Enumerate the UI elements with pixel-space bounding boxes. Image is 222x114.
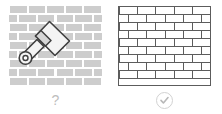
brick-joint [128,63,129,70]
brick-joint [210,7,211,14]
brick-joint [174,71,175,78]
brick-joint [137,55,138,62]
brick-row [9,6,102,13]
brick-joint [210,71,211,78]
brick-joint [119,71,120,78]
question-mark-icon: ? [52,93,60,107]
brick [66,6,83,13]
brick-joint [155,39,156,46]
check-circle-icon [156,92,173,109]
brick-joint [128,47,129,54]
brick [38,69,55,76]
unpainted-brick-wall-panel[interactable] [9,6,102,86]
brick-joint [155,71,156,78]
check-mark-glyph [159,95,170,106]
brick [29,6,46,13]
brick [47,6,64,13]
brick-row [119,7,210,15]
brick [10,6,27,13]
brick-joint [183,47,184,54]
brick-joint [155,23,156,30]
brick-row [119,31,210,39]
brick [10,78,27,85]
brick-joint [192,7,193,14]
brick-joint [192,39,193,46]
brick [9,69,17,76]
brick [94,33,102,40]
brick-row [119,15,210,23]
brick-joint [146,63,147,70]
brick [84,60,101,67]
brick [57,69,74,76]
brick-joint [201,31,202,38]
brick-joint [146,47,147,54]
brick [66,78,83,85]
brick-row [9,78,102,85]
brick [84,6,101,13]
brick-joint [165,63,166,70]
brick-joint [174,55,175,62]
brick-joint [146,31,147,38]
brick-joint [210,55,211,62]
brick-joint [155,7,156,14]
brick [75,51,92,58]
brick [19,69,36,76]
brick-joint [119,39,120,46]
brick-row [9,69,102,76]
brick-joint [146,15,147,22]
brick [75,33,92,40]
brick-row [119,55,210,63]
brick-joint [201,63,202,70]
trowel-icon [17,18,73,70]
brick-joint [165,47,166,54]
brick-joint [174,23,175,30]
brick [29,78,46,85]
brick [94,69,102,76]
brick-joint [165,31,166,38]
brick-joint [183,31,184,38]
brick-joint [183,63,184,70]
brick-joint [119,55,120,62]
brick [47,78,64,85]
brick-joint [192,71,193,78]
brick-joint [137,23,138,30]
brick-row [119,39,210,47]
right-panel-caption[interactable] [118,90,211,110]
brick [94,15,102,22]
brick-joint [192,55,193,62]
brick-joint [210,39,211,46]
brick [84,78,101,85]
brick [94,51,102,58]
brick-joint [137,7,138,14]
brick-joint [137,39,138,46]
brick-joint [192,23,193,30]
brick-joint [174,7,175,14]
brick-row [119,47,210,55]
brick [75,15,92,22]
brick-joint [155,55,156,62]
brick-joint [119,7,120,14]
brick-joint [183,15,184,22]
brick [84,42,101,49]
brick [75,69,92,76]
comparison-board: ? [0,0,222,114]
brick-joint [165,15,166,22]
brick-row [119,71,210,79]
brick [84,24,101,31]
brick-joint [201,47,202,54]
outlined-brick-wall-panel[interactable] [118,6,211,86]
brick-joint [210,23,211,30]
brick-row [119,63,210,71]
brick-joint [137,71,138,78]
brick-joint [174,39,175,46]
brick-joint [128,31,129,38]
brick-texture-outlined [119,7,210,85]
brick-joint [201,15,202,22]
brick-row [119,23,210,31]
brick-joint [119,23,120,30]
left-panel-caption[interactable]: ? [9,90,102,110]
brick-joint [128,15,129,22]
